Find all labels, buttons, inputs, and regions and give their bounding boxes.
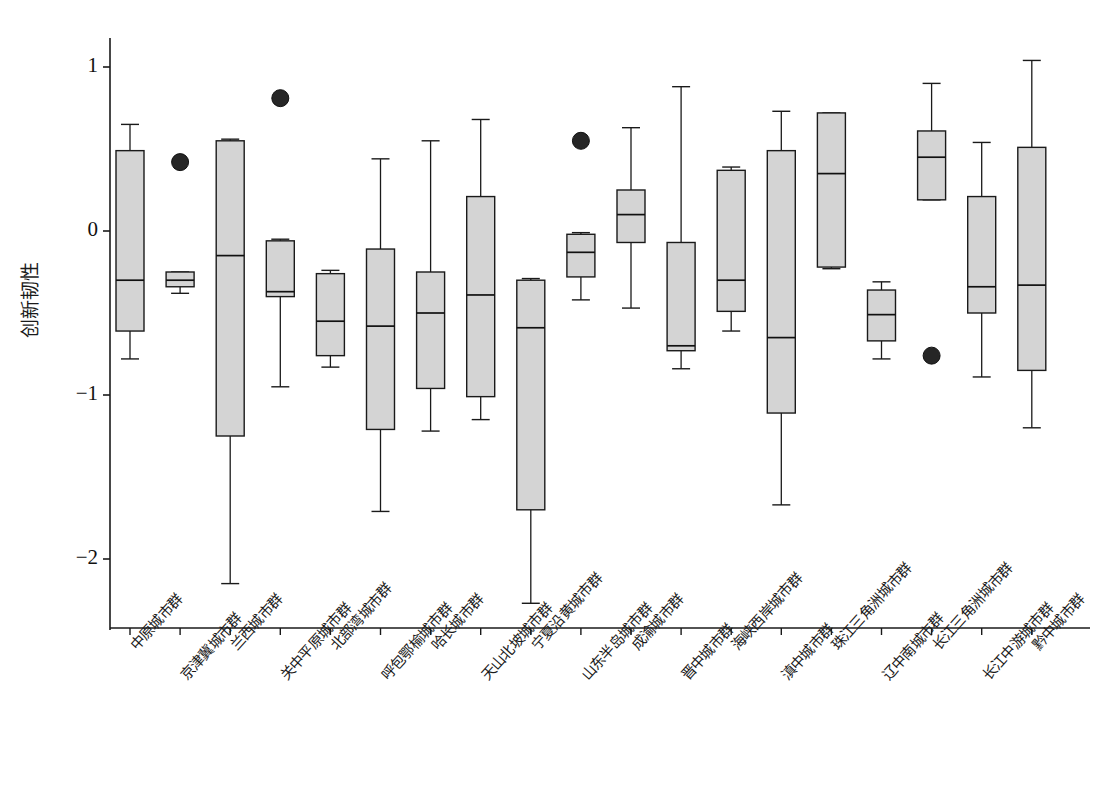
box-rect (417, 272, 445, 388)
box-group (968, 142, 996, 377)
y-tick-label: −2 (52, 545, 98, 570)
box-rect (116, 151, 144, 331)
y-tick-label: −1 (52, 381, 98, 406)
box-group (667, 87, 695, 369)
box-rect (567, 234, 595, 277)
box-rect (767, 151, 795, 413)
box-group (817, 113, 845, 269)
box-group (517, 279, 545, 604)
box-rect (968, 197, 996, 313)
y-axis-title: 创新韧性 (15, 220, 42, 380)
box-rect (266, 241, 294, 297)
box-group (116, 124, 144, 359)
box-group (417, 141, 445, 431)
boxplot-figure: 创新韧性 10−1−2 中原城市群京津冀城市群兰西城市群关中平原城市群北部湾城市… (0, 0, 1106, 792)
box-rect (918, 131, 946, 200)
box-rect (717, 170, 745, 311)
box-group (617, 128, 645, 308)
y-tick-label: 1 (52, 53, 98, 78)
box-group (918, 83, 946, 364)
box-rect (1018, 147, 1046, 370)
box-rect (667, 242, 695, 350)
plot-canvas (0, 0, 1106, 792)
box-group (166, 154, 194, 294)
box-group (567, 132, 595, 300)
box-group (367, 159, 395, 512)
box-rect (467, 197, 495, 397)
boxes-layer (116, 60, 1046, 603)
box-group (767, 111, 795, 505)
box-rect (367, 249, 395, 429)
box-group (717, 167, 745, 331)
box-rect (517, 280, 545, 510)
box-rect (817, 113, 845, 267)
box-group (868, 282, 896, 359)
box-group (316, 270, 344, 367)
box-rect (316, 274, 344, 356)
y-tick-label: 0 (52, 217, 98, 242)
box-group (266, 90, 294, 387)
axis-layer (103, 38, 1090, 635)
box-group (467, 119, 495, 419)
outlier-point (923, 347, 940, 364)
outlier-point (272, 90, 289, 107)
box-group (1018, 60, 1046, 427)
box-rect (617, 190, 645, 242)
box-rect (216, 141, 244, 436)
outlier-point (172, 154, 189, 171)
outlier-point (572, 132, 589, 149)
box-group (216, 139, 244, 583)
